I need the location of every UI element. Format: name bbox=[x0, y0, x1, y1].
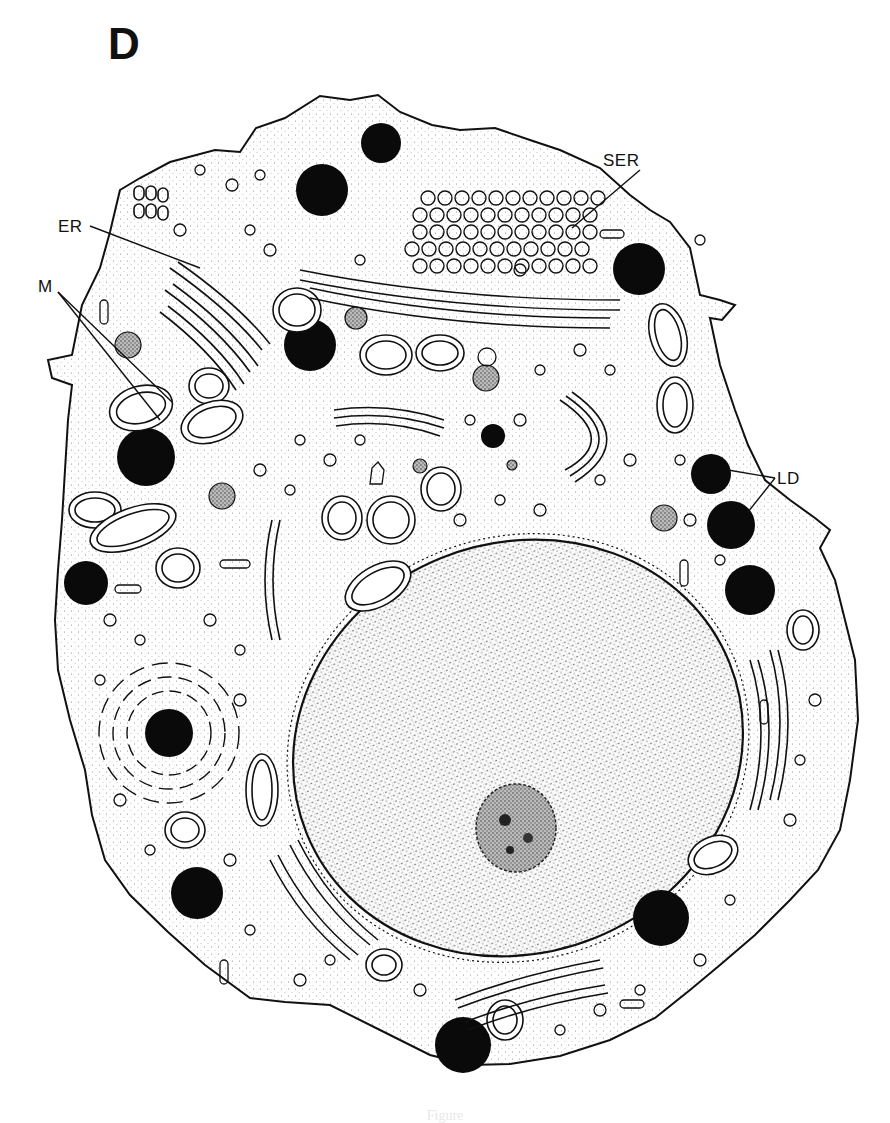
label-er: ER bbox=[58, 218, 83, 235]
label-ld: LD bbox=[777, 470, 800, 487]
cell-figure: D bbox=[0, 0, 890, 1123]
nucleolus bbox=[476, 784, 556, 872]
label-m: M bbox=[38, 278, 53, 295]
figure-caption: Figure bbox=[0, 1108, 890, 1123]
label-ser: SER bbox=[603, 152, 639, 169]
cell-drawing bbox=[0, 0, 890, 1123]
